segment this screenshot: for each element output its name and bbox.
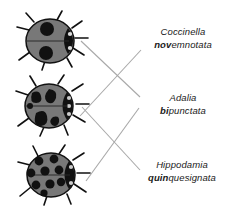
ladybug-species-matching-figure: Coccinella novemnotata Adalia bipunctata… xyxy=(0,0,230,221)
genus-name-hippodamia: Hippodamia xyxy=(136,159,228,172)
species-name-novemnotata: novemnotata xyxy=(140,39,226,52)
species-suffix-punctata: punctata xyxy=(169,105,206,116)
ladybug-illustration-many-round-spots xyxy=(14,142,98,208)
ladybug-illustration-two-large-spots xyxy=(12,8,96,74)
species-suffix-quesignata: quesignata xyxy=(168,172,215,183)
ladybug-illustration-irregular-blotches xyxy=(12,73,96,139)
species-name-quinquesignata: quinquesignata xyxy=(136,172,228,185)
species-prefix-quin: quin xyxy=(148,172,168,183)
genus-name-coccinella: Coccinella xyxy=(140,26,226,39)
species-label-hippodamia-quinquesignata: Hippodamia quinquesignata xyxy=(136,159,228,184)
species-label-coccinella-novemnotata: Coccinella novemnotata xyxy=(140,26,226,51)
species-name-bipunctata: bipunctata xyxy=(140,105,226,118)
species-suffix-emnotata: emnotata xyxy=(171,39,211,50)
species-label-adalia-bipunctata: Adalia bipunctata xyxy=(140,92,226,117)
genus-name-adalia: Adalia xyxy=(140,92,226,105)
species-prefix-bi: bi xyxy=(160,105,169,116)
species-prefix-nov: nov xyxy=(154,39,171,50)
